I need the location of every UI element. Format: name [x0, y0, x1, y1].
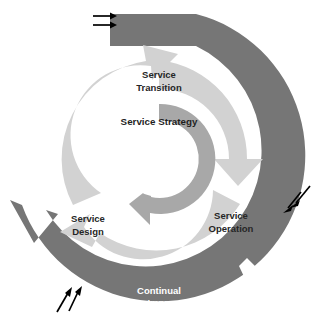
- label-service-design-line1: Service: [71, 213, 105, 224]
- outer-ring-label-line1: Continual: [137, 285, 181, 296]
- outer-ring-label-line2: Service Improvement: [111, 297, 208, 308]
- label-service-strategy: Service Strategy: [121, 116, 198, 127]
- label-service-operation-line1: Service: [214, 210, 248, 221]
- label-service-operation-line2: Operation: [209, 223, 254, 234]
- label-service-transition-line1: Service: [142, 69, 176, 80]
- label-service-design-line2: Design: [72, 226, 104, 237]
- itil-service-lifecycle-diagram: Continual Service Improvement Service Tr…: [0, 0, 318, 323]
- center-hub: [121, 121, 197, 197]
- diagram-canvas: Continual Service Improvement Service Tr…: [0, 0, 318, 323]
- label-service-transition-line2: Transition: [136, 82, 182, 93]
